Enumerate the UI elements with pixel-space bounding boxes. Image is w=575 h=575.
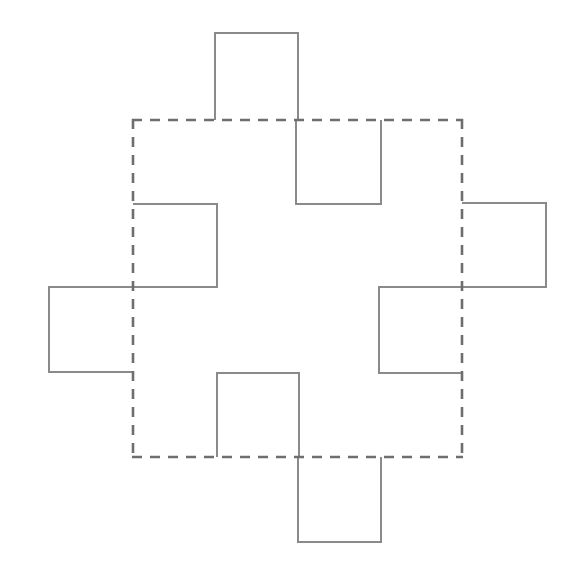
interlocking-square-figure: [0, 0, 575, 575]
figure-canvas: [0, 0, 575, 575]
